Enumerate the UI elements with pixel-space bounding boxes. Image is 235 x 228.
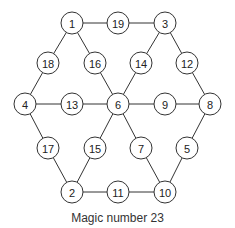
node-label: 2: [69, 187, 75, 199]
node-label: 9: [162, 99, 168, 111]
node-4: 4: [14, 93, 36, 115]
node-label: 19: [112, 18, 124, 30]
node-label: 18: [42, 58, 54, 70]
node-12: 12: [176, 52, 198, 74]
diagram-caption: Magic number 23: [0, 211, 235, 225]
node-label: 16: [89, 58, 101, 70]
node-5: 5: [176, 137, 198, 159]
node-13: 13: [61, 93, 83, 115]
node-label: 1: [69, 18, 75, 30]
node-8: 8: [199, 93, 221, 115]
node-label: 10: [159, 187, 171, 199]
node-2: 2: [61, 181, 83, 203]
node-label: 7: [138, 143, 144, 155]
node-7: 7: [130, 137, 152, 159]
node-label: 13: [66, 99, 78, 111]
node-label: 6: [115, 99, 121, 111]
node-3: 3: [154, 12, 176, 34]
node-label: 3: [162, 18, 168, 30]
node-label: 4: [22, 99, 28, 111]
node-label: 14: [135, 58, 147, 70]
node-11: 11: [107, 181, 129, 203]
node-16: 16: [84, 52, 106, 74]
node-label: 5: [184, 143, 190, 155]
node-6: 6: [107, 93, 129, 115]
node-label: 17: [42, 143, 54, 155]
magic-hexagon-diagram: 11931816141241369817157521110: [0, 0, 235, 228]
node-9: 9: [154, 93, 176, 115]
node-10: 10: [154, 181, 176, 203]
node-label: 15: [89, 143, 101, 155]
node-label: 12: [181, 58, 193, 70]
node-15: 15: [84, 137, 106, 159]
node-label: 8: [207, 99, 213, 111]
node-17: 17: [37, 137, 59, 159]
node-18: 18: [37, 52, 59, 74]
node-label: 11: [112, 187, 123, 199]
node-19: 19: [107, 12, 129, 34]
node-1: 1: [61, 12, 83, 34]
number-nodes: 11931816141241369817157521110: [14, 12, 221, 203]
node-14: 14: [130, 52, 152, 74]
